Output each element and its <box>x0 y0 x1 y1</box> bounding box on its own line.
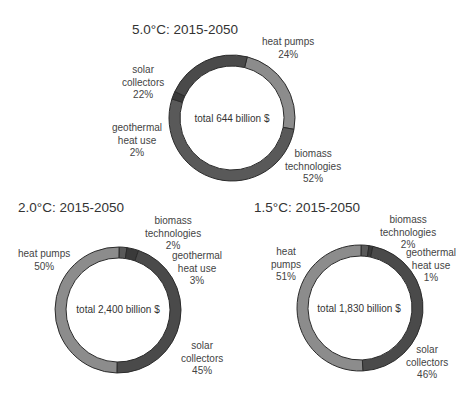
chart-title-1-5c: 1.5°C: 2015-2050 <box>254 200 360 215</box>
segment-solar-collectors <box>175 55 247 96</box>
center-total-1-5c: total 1,830 billion $ <box>317 303 400 314</box>
chart-title-2-0c: 2.0°C: 2015-2050 <box>18 200 124 215</box>
center-total-2-0c: total 2,400 billion $ <box>76 304 159 315</box>
donut-charts-canvas <box>0 0 474 397</box>
segment-biomass-technologies <box>169 99 294 181</box>
label-heat-pumps-2-0c: heat pumps50% <box>18 248 70 273</box>
label-heat-pumps-1-5c: heatpumps51% <box>271 246 301 284</box>
chart-title-5-0c: 5.0°C: 2015-2050 <box>132 22 238 37</box>
label-geothermal-5-0c: geothermalheat use2% <box>112 122 162 160</box>
label-heat-pumps-5-0c: heat pumps24% <box>262 36 314 61</box>
label-geothermal-2-0c: geothermalheat use3% <box>172 250 222 288</box>
label-biomass-5-0c: biomasstechnologies52% <box>285 148 341 186</box>
label-solar-1-5c: solarcollectors46% <box>406 344 448 382</box>
label-biomass-1-5c: biomasstechnologies2% <box>380 214 436 252</box>
label-biomass-2-0c: biomasstechnologies2% <box>145 215 201 253</box>
label-solar-2-0c: solarcollectors45% <box>181 340 223 378</box>
label-geothermal-1-5c: geothermalheat use1% <box>406 247 456 285</box>
label-solar-5-0c: solarcollectors22% <box>122 64 164 102</box>
center-total-5-0c: total 644 billion $ <box>194 113 269 124</box>
